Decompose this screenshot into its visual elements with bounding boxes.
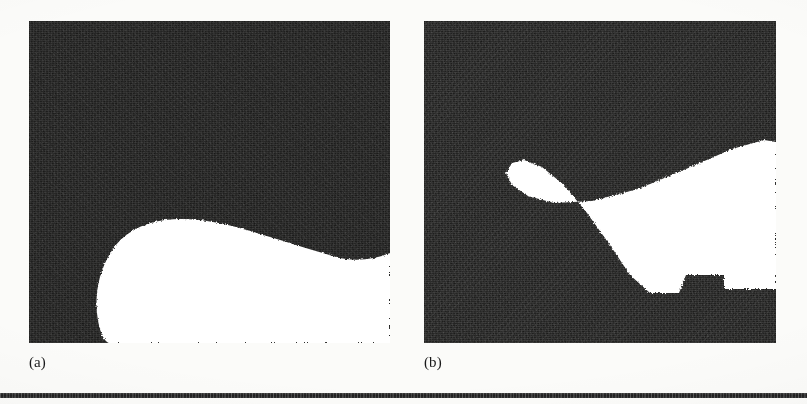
panel-b-caption: (b) bbox=[424, 355, 442, 370]
panel-b-image bbox=[424, 21, 776, 343]
bottom-horizontal-rule bbox=[0, 393, 807, 398]
panel-a-image bbox=[29, 21, 390, 343]
figure-panel-b bbox=[424, 21, 776, 343]
figure-root: (a) (b) bbox=[0, 0, 807, 404]
figure-panel-a bbox=[29, 21, 390, 343]
panel-a-caption: (a) bbox=[29, 355, 46, 370]
